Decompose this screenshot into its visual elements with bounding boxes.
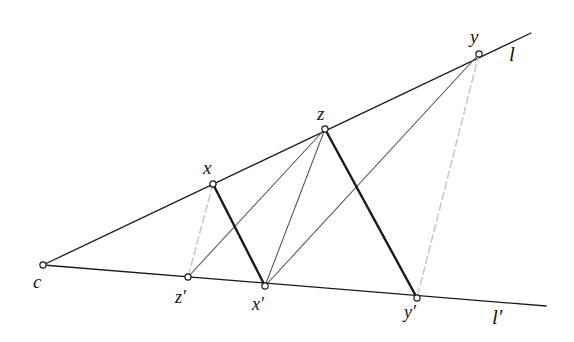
point-label-zprime: z′: [175, 288, 186, 306]
line-label-l: l: [509, 44, 515, 65]
segment-z-to-xprime: [265, 129, 325, 286]
base-lines: [43, 33, 546, 306]
point-marker-x: [210, 181, 216, 187]
geometry-figure: c x z y z′ x′ y′ l l′: [0, 0, 574, 342]
line-label-l-prime: l′: [492, 307, 502, 328]
point-marker-zprime: [185, 274, 191, 280]
point-marker-z: [322, 126, 328, 132]
point-marker-yprime: [414, 295, 420, 301]
point-label-xprime: x′: [252, 295, 264, 313]
figure-canvas: [0, 0, 574, 342]
line-l-prime: [43, 265, 546, 306]
point-marker-xprime: [262, 283, 268, 289]
point-label-y: y: [470, 27, 478, 46]
point-label-c: c: [33, 272, 41, 291]
segment-x-to-xprime: [213, 184, 265, 286]
point-marker-y: [476, 51, 482, 57]
point-label-z: z: [317, 104, 324, 123]
segment-y-to-yprime: [417, 54, 479, 298]
segment-xprime-to-y: [265, 54, 479, 286]
point-label-yprime: y′: [404, 303, 416, 321]
point-label-x: x: [203, 158, 211, 177]
line-l: [43, 33, 531, 265]
thin-gray-segments: [188, 54, 479, 286]
segment-z-to-yprime: [325, 129, 417, 298]
point-marker-c: [40, 262, 46, 268]
segment-zprime-to-z: [188, 129, 325, 277]
